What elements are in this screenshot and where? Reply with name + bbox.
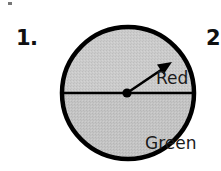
spinner-diagram: Red Green: [58, 23, 198, 163]
problem-number-label: 1.: [16, 28, 38, 49]
scan-artifact-speck: [8, 2, 12, 5]
sector-label-red: Red: [156, 70, 188, 87]
sector-label-green: Green: [145, 135, 196, 152]
spinner-pivot-dot: [122, 88, 131, 97]
worksheet-page: 1.: [0, 0, 221, 171]
next-problem-number-label: 2.: [206, 28, 221, 49]
